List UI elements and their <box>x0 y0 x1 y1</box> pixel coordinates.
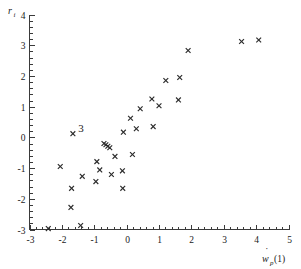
x-tick-label: -2 <box>59 235 67 245</box>
x-tick-label: 5 <box>287 235 292 245</box>
x-tick-label: 0 <box>125 235 130 245</box>
data-point-marker <box>107 145 112 150</box>
data-point-marker <box>94 159 99 164</box>
data-point-marker <box>239 39 244 44</box>
y-tick-label: 1 <box>21 103 26 113</box>
y-tick-label: 2 <box>21 72 26 82</box>
x-tick-label: 2 <box>189 235 194 245</box>
data-point-marker <box>113 154 118 159</box>
scatter-plot-canvas: -3-2-101234 -3-2-1012345 3 r i w ˙ p (1) <box>0 0 301 269</box>
x-tick-label: 1 <box>157 235 162 245</box>
data-point-marker <box>149 97 154 102</box>
data-point-marker <box>120 168 125 173</box>
annotation-label-3: 3 <box>78 122 84 134</box>
y-tick-label: -2 <box>18 195 26 205</box>
y-axis-label: r i <box>8 5 16 19</box>
data-point-marker <box>69 186 74 191</box>
data-point-marker <box>177 75 182 80</box>
data-point-marker <box>151 124 156 129</box>
x-axis-label: w ˙ p (1) <box>262 246 285 268</box>
x-axis-label-suffix: (1) <box>274 254 285 265</box>
data-point-marker <box>256 38 261 43</box>
x-axis-ticks <box>31 225 290 230</box>
data-point-marker <box>97 168 102 173</box>
data-point-marker <box>130 152 135 157</box>
y-axis-tick-labels: -3-2-101234 <box>18 11 26 236</box>
y-tick-label: -1 <box>18 164 26 174</box>
y-tick-label: -3 <box>18 226 26 236</box>
axes-group <box>30 15 289 230</box>
x-axis-label-dot: ˙ <box>265 246 268 257</box>
y-axis-label-subscript: i <box>14 11 16 19</box>
data-point-marker <box>120 186 125 191</box>
x-tick-label: 3 <box>222 235 227 245</box>
data-point-marker <box>128 116 133 121</box>
data-point-marker <box>121 130 126 135</box>
data-point-marker <box>58 164 63 169</box>
y-axis-label-base: r <box>8 5 12 16</box>
x-tick-label: -1 <box>91 235 99 245</box>
y-tick-label: 3 <box>21 41 26 51</box>
x-tick-label: 4 <box>254 235 259 245</box>
data-point-marker <box>109 172 114 177</box>
data-point-marker <box>80 174 85 179</box>
data-point-marker <box>70 131 75 136</box>
data-point-marker <box>186 48 191 53</box>
data-point-marker <box>134 126 139 131</box>
data-point-markers <box>46 38 261 231</box>
data-point-marker <box>78 223 83 228</box>
data-point-marker <box>138 106 143 111</box>
data-point-marker <box>69 205 74 210</box>
data-point-marker <box>93 179 98 184</box>
y-tick-label: 0 <box>21 133 26 143</box>
scatter-plot-figure: -3-2-101234 -3-2-1012345 3 r i w ˙ p (1) <box>0 0 301 269</box>
y-axis-ticks <box>30 16 35 231</box>
data-point-marker <box>157 103 162 108</box>
data-point-marker <box>176 97 181 102</box>
x-axis-tick-labels: -3-2-1012345 <box>27 235 293 245</box>
y-tick-label: 4 <box>21 11 26 21</box>
data-point-marker <box>163 78 168 83</box>
x-tick-label: -3 <box>27 235 35 245</box>
